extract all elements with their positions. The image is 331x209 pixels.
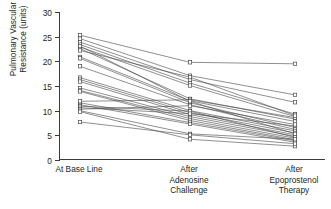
data-point-marker bbox=[78, 49, 81, 52]
data-point-marker bbox=[293, 132, 296, 135]
data-point-marker bbox=[188, 61, 191, 64]
subject-trajectory bbox=[80, 39, 295, 95]
series-line bbox=[78, 33, 296, 65]
data-point-marker bbox=[293, 101, 296, 104]
data-point-marker bbox=[78, 90, 81, 93]
data-point-marker bbox=[78, 65, 81, 68]
subject-trajectory bbox=[80, 58, 295, 127]
data-point-marker bbox=[188, 104, 191, 107]
x-axis-label-2: After Adenosine Challenge bbox=[169, 164, 208, 196]
data-point-marker bbox=[188, 138, 191, 141]
x-axis-label-1: At Base Line bbox=[55, 164, 102, 175]
subject-trajectory bbox=[80, 122, 295, 144]
data-point-marker bbox=[78, 44, 81, 47]
series-line bbox=[78, 49, 296, 118]
data-point-marker bbox=[78, 100, 81, 103]
data-point-marker bbox=[293, 93, 296, 96]
data-point-marker bbox=[188, 75, 191, 78]
data-point-marker bbox=[78, 33, 81, 36]
subject-trajectory bbox=[80, 46, 295, 134]
data-point-marker bbox=[293, 123, 296, 126]
series-line bbox=[78, 37, 296, 97]
data-point-marker bbox=[78, 120, 81, 123]
data-lines-layer bbox=[60, 12, 326, 160]
series-line bbox=[78, 89, 296, 140]
subject-trajectory bbox=[80, 105, 295, 142]
series-line bbox=[78, 40, 296, 104]
data-point-marker bbox=[78, 57, 81, 60]
y-tick-label-10: 10 bbox=[43, 107, 52, 117]
y-tick-label-25: 25 bbox=[43, 33, 52, 43]
data-point-marker bbox=[188, 112, 191, 115]
y-tick-label-0: 0 bbox=[47, 156, 52, 166]
y-tick-label-30: 30 bbox=[43, 8, 52, 18]
data-point-marker bbox=[78, 37, 81, 40]
data-point-marker bbox=[188, 100, 191, 103]
data-point-marker bbox=[78, 80, 81, 83]
subject-trajectory bbox=[80, 78, 295, 131]
plot-area: 051015202530 bbox=[59, 12, 325, 160]
series-line bbox=[78, 57, 296, 129]
data-point-marker bbox=[293, 138, 296, 141]
data-point-marker bbox=[78, 110, 81, 113]
y-axis-title: Pulmonary Vascular Resistance (units) bbox=[9, 0, 31, 103]
y-tick-label-5: 5 bbox=[47, 131, 52, 141]
data-point-marker bbox=[188, 122, 191, 125]
subject-trajectory bbox=[80, 47, 295, 117]
data-point-marker bbox=[293, 62, 296, 65]
data-point-marker bbox=[188, 84, 191, 87]
chart-root: Pulmonary Vascular Resistance (units) 05… bbox=[0, 0, 331, 209]
series-line bbox=[78, 78, 296, 135]
x-axis-label-3: After Epoprostenol Therapy bbox=[270, 164, 319, 196]
series-line bbox=[78, 43, 296, 116]
y-tick-0: 0 bbox=[55, 160, 60, 161]
subject-trajectory bbox=[80, 42, 295, 102]
data-point-marker bbox=[293, 142, 296, 145]
y-tick-label-20: 20 bbox=[43, 57, 52, 67]
y-tick-label-15: 15 bbox=[43, 82, 52, 92]
data-point-marker bbox=[188, 133, 191, 136]
data-point-marker bbox=[293, 114, 296, 117]
